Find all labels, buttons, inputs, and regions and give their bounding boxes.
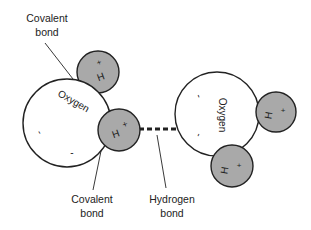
hydrogen-charge: +	[237, 161, 242, 170]
label-covalent-bond-top-line2: bond	[35, 26, 59, 38]
water-molecule-left: Oxygen - - H + H +	[23, 51, 140, 167]
hydrogen-atom-left-right	[98, 109, 140, 151]
hydrogen-atom-right-top	[256, 92, 296, 132]
hydrogen-atom-right-bottom	[211, 145, 253, 187]
oxygen-atom-right	[175, 72, 259, 156]
oxygen-label-right: Oxygen	[217, 98, 228, 132]
label-hydrogen-bond-line2: bond	[160, 207, 184, 219]
label-hydrogen-bond-line1: Hydrogen	[149, 193, 195, 205]
water-hydrogen-bond-diagram: Oxygen - - H + H + Oxygen - - H + H + Co…	[0, 0, 311, 230]
water-molecule-right: Oxygen - - H + H +	[175, 72, 296, 187]
hydrogen-charge: +	[281, 106, 286, 115]
label-covalent-bond-top-line1: Covalent	[26, 12, 68, 24]
charge-mark: -	[70, 147, 73, 158]
label-covalent-bond-bottom-line1: Covalent	[71, 193, 113, 205]
covalent-top-leader	[45, 43, 73, 79]
label-covalent-bond-bottom-line2: bond	[80, 207, 104, 219]
hydrogen-bond-leader	[157, 135, 166, 188]
